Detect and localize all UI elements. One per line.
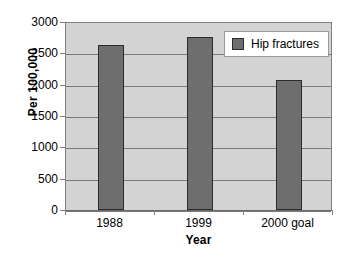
legend: Hip fractures [224, 31, 329, 57]
x-axis-tick-label: 1999 [185, 216, 212, 230]
x-axis-tick-mark [65, 210, 66, 215]
y-axis-tick-label: 0 [16, 203, 58, 217]
bar [276, 80, 302, 210]
y-axis-tick-labels: 050010001500200025003000 [16, 22, 58, 210]
y-axis-tick-label: 1000 [16, 140, 58, 154]
y-axis-tick-mark [60, 116, 65, 117]
legend-label-hip-fractures: Hip fractures [251, 37, 319, 51]
y-axis-tick-mark [60, 53, 65, 54]
bar [98, 45, 124, 210]
x-axis-tick-label: 1988 [96, 216, 123, 230]
x-axis-line [65, 210, 333, 211]
y-axis-tick-label: 2000 [16, 78, 58, 92]
x-axis-title: Year [65, 233, 332, 247]
y-axis-tick-mark [60, 22, 65, 23]
gridline [66, 211, 331, 212]
y-axis-tick-label: 3000 [16, 15, 58, 29]
x-axis-tick-mark [332, 210, 333, 215]
y-axis-tick-mark [60, 147, 65, 148]
bar-chart: Per 100,000 050010001500200025003000 Yea… [0, 0, 345, 257]
x-axis-tick-label: 2000 goal [261, 216, 314, 230]
legend-swatch-hip-fractures [232, 38, 244, 50]
y-axis-tick-label: 500 [16, 172, 58, 186]
x-axis-tick-mark [243, 210, 244, 215]
y-axis-tick-mark [60, 179, 65, 180]
x-axis-tick-mark [154, 210, 155, 215]
y-axis-tick-mark [60, 85, 65, 86]
y-axis-tick-label: 2500 [16, 46, 58, 60]
y-axis-tick-label: 1500 [16, 109, 58, 123]
bar [187, 37, 213, 210]
